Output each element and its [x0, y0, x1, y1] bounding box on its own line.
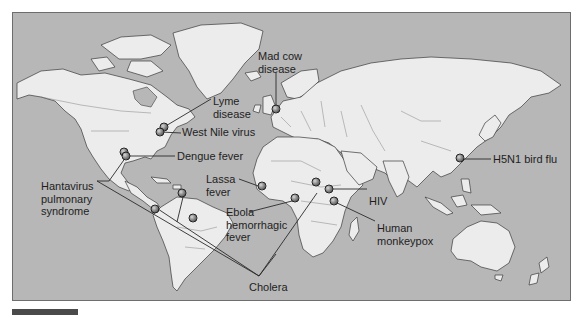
southeast-asia-islands — [425, 179, 501, 215]
marker-cholera-africa — [312, 178, 321, 187]
label-hiv: HIV — [369, 195, 387, 208]
new-zealand — [529, 257, 549, 285]
north-america — [17, 69, 195, 191]
marker-ebola — [291, 194, 300, 203]
marker-hiv — [325, 185, 334, 194]
label-lassa: Lassafever — [206, 173, 235, 198]
label-lyme: Lymedisease — [213, 95, 251, 120]
caribbean-islands — [151, 177, 181, 189]
marker-cholera-peru — [151, 205, 160, 214]
label-h5n1: H5N1 bird flu — [493, 153, 557, 166]
label-dengue: Dengue fever — [177, 150, 243, 163]
marker-monkeypox — [330, 197, 339, 206]
arctic-islands — [91, 35, 171, 77]
tasmania — [495, 275, 503, 281]
madagascar — [349, 217, 359, 241]
marker-hantavirus-sa — [189, 214, 198, 223]
india — [383, 161, 409, 197]
figure-caption-bar — [12, 309, 78, 315]
label-mad-cow: Mad cowdisease — [258, 50, 302, 75]
marker-h5n1 — [456, 154, 465, 163]
label-hantavirus: Hantaviruspulmonarysyndrome — [41, 180, 94, 218]
label-west-nile: West Nile virus — [182, 126, 255, 139]
label-ebola: Ebolahemorrhagicfever — [226, 206, 287, 244]
world-map: Mad cowdisease Lymedisease West Nile vir… — [12, 12, 571, 301]
marker-dengue-sa — [178, 189, 187, 198]
label-cholera: Cholera — [249, 281, 288, 294]
greenland — [173, 23, 263, 99]
marker-mad-cow — [272, 105, 281, 114]
marker-lassa — [258, 182, 267, 191]
label-monkeypox: Humanmonkeypox — [377, 222, 433, 247]
australia — [451, 221, 515, 271]
marker-west-nile — [156, 128, 165, 137]
marker-dengue-na — [122, 152, 131, 161]
south-america — [153, 197, 233, 291]
